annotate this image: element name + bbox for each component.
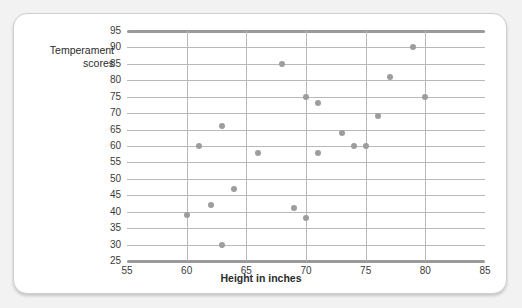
y-tick-label: 65 [110, 125, 121, 135]
y-tick-label: 85 [110, 59, 121, 69]
y-tick-label: 40 [110, 207, 121, 217]
y-tick-label: 25 [110, 256, 121, 266]
x-tick-label: 85 [479, 266, 490, 276]
x-tick-label: 80 [420, 266, 431, 276]
x-tick-label: 70 [300, 266, 311, 276]
y-tick-label: 45 [110, 190, 121, 200]
data-point [375, 113, 381, 119]
data-point [184, 212, 190, 218]
data-point [219, 242, 225, 248]
y-tick-label: 90 [110, 42, 121, 52]
y-axis-title: Temperament scores [18, 44, 114, 70]
figure-root: Temperament scores Height in inches 2530… [0, 0, 522, 308]
x-tick-label: 75 [360, 266, 371, 276]
gridline-vertical [306, 31, 307, 261]
y-tick-label: 80 [110, 75, 121, 85]
x-tick-label: 65 [241, 266, 252, 276]
y-tick-label: 95 [110, 26, 121, 36]
y-tick-label: 70 [110, 108, 121, 118]
gridline-vertical [187, 31, 188, 261]
data-point [303, 94, 309, 100]
data-point [351, 143, 357, 149]
data-point [339, 130, 345, 136]
y-tick-label: 60 [110, 141, 121, 151]
gridline-vertical [425, 31, 426, 261]
data-point [422, 94, 428, 100]
x-tick-label: 60 [181, 266, 192, 276]
data-point [279, 61, 285, 67]
data-point [231, 186, 237, 192]
data-point [315, 150, 321, 156]
gridline-vertical [246, 31, 247, 261]
data-point [363, 143, 369, 149]
data-point [219, 123, 225, 129]
data-point [387, 74, 393, 80]
x-axis-title: Height in inches [0, 272, 522, 284]
y-tick-label: 30 [110, 240, 121, 250]
data-point [410, 44, 416, 50]
data-point [303, 215, 309, 221]
data-point [255, 150, 261, 156]
plot-area: 253035404550556065707580859095 556065707… [127, 31, 485, 261]
y-tick-label: 75 [110, 92, 121, 102]
data-point [208, 202, 214, 208]
data-point [315, 100, 321, 106]
data-point [196, 143, 202, 149]
y-tick-label: 55 [110, 157, 121, 167]
x-tick-label: 55 [121, 266, 132, 276]
y-tick-label: 50 [110, 174, 121, 184]
data-point [291, 205, 297, 211]
y-tick-label: 35 [110, 223, 121, 233]
